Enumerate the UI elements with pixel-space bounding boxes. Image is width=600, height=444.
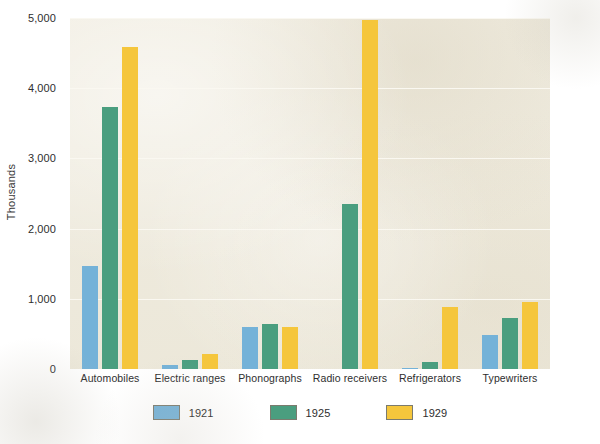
bar [82, 266, 98, 369]
bar-chart-figure: Thousands 01,0002,0003,0004,0005,000 Aut… [0, 0, 600, 444]
legend-item: 1929 [386, 405, 447, 420]
y-tick-label: 2,000 [28, 223, 56, 235]
bar [162, 365, 178, 369]
legend-label: 1925 [306, 407, 331, 419]
x-tick-label: Refrigerators [399, 372, 461, 384]
bar [522, 302, 538, 369]
bar [102, 107, 118, 369]
bar [402, 368, 418, 369]
legend-swatch [153, 405, 180, 420]
y-tick-label: 0 [50, 363, 56, 375]
bar [182, 360, 198, 369]
bar [122, 47, 138, 369]
legend-item: 1925 [270, 405, 331, 420]
legend-swatch [386, 405, 413, 420]
y-axis-tick-labels: 01,0002,0003,0004,0005,000 [16, 18, 63, 369]
legend-label: 1929 [422, 407, 447, 419]
x-tick-label: Typewriters [483, 372, 538, 384]
bar [282, 327, 298, 369]
gridline [70, 229, 550, 230]
gridline [70, 158, 550, 159]
y-tick-label: 3,000 [28, 152, 56, 164]
bar [442, 307, 458, 369]
x-tick-label: Electric ranges [155, 372, 226, 384]
chart-legend: 192119251929 [0, 405, 600, 420]
legend-swatch [270, 405, 297, 420]
gridline [70, 18, 550, 19]
bar [422, 362, 438, 369]
bar [342, 204, 358, 369]
bar [262, 324, 278, 369]
y-tick-label: 5,000 [28, 12, 56, 24]
legend-label: 1921 [189, 407, 214, 419]
bar [502, 318, 518, 369]
paper-texture [70, 18, 550, 369]
x-tick-label: Radio receivers [313, 372, 387, 384]
bar [202, 354, 218, 369]
gridline [70, 88, 550, 89]
gridline [70, 299, 550, 300]
x-tick-label: Phonographs [238, 372, 302, 384]
x-tick-label: Automobiles [81, 372, 140, 384]
bar [482, 335, 498, 369]
plot-area [70, 18, 550, 369]
y-tick-label: 4,000 [28, 82, 56, 94]
legend-item: 1921 [153, 405, 214, 420]
x-axis-tick-labels: AutomobilesElectric rangesPhonographsRad… [70, 372, 550, 390]
bar [242, 327, 258, 369]
y-tick-label: 1,000 [28, 293, 56, 305]
bar [362, 20, 378, 369]
